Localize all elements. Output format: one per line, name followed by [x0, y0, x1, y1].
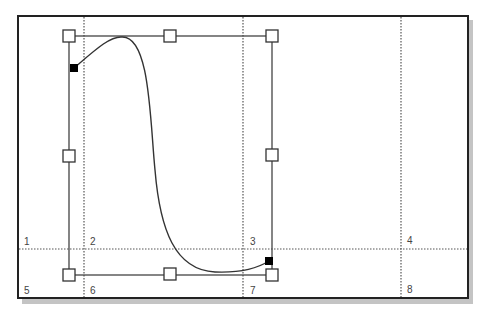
handle-middle-left[interactable]	[63, 150, 75, 162]
handle-top-left[interactable]	[63, 30, 75, 42]
handle-top-center[interactable]	[164, 30, 176, 42]
handle-bottom-left[interactable]	[63, 269, 75, 281]
region-label-6: 6	[90, 286, 96, 296]
handle-bottom-right[interactable]	[266, 269, 278, 281]
region-label-2: 2	[90, 237, 96, 247]
region-label-8: 8	[407, 285, 413, 295]
region-label-7: 7	[250, 286, 256, 296]
anchor-point-end[interactable]	[265, 257, 273, 265]
handle-bottom-center[interactable]	[164, 268, 176, 280]
region-label-5: 5	[24, 286, 30, 296]
diagram-canvas	[0, 0, 481, 317]
handle-middle-right[interactable]	[266, 149, 278, 161]
region-label-3: 3	[250, 237, 256, 247]
anchor-point-start[interactable]	[70, 64, 78, 72]
region-label-1: 1	[24, 237, 30, 247]
region-label-4: 4	[407, 236, 413, 246]
handle-top-right[interactable]	[266, 30, 278, 42]
